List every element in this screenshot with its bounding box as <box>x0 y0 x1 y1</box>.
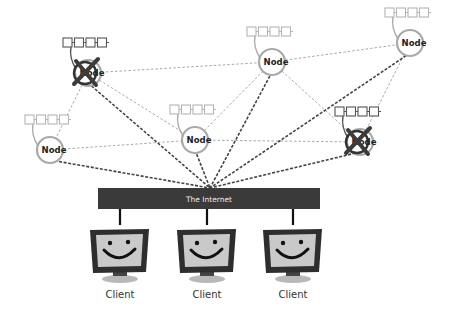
node-n4[interactable]: Node <box>25 115 71 163</box>
client-3[interactable]: Client <box>263 209 322 300</box>
internet-bar: The Internet <box>98 188 320 209</box>
node-label: Node <box>402 38 427 48</box>
client-label: Client <box>279 289 308 300</box>
node-n2[interactable]: Node <box>247 27 293 75</box>
node-label: Node <box>42 145 67 155</box>
message-queue-icon <box>335 107 381 116</box>
shapes-layer: NodeNodeNodeNodeNodeNodeThe InternetClie… <box>0 0 453 312</box>
client-1[interactable]: Client <box>90 209 149 300</box>
message-queue-icon <box>63 38 109 47</box>
node-n1-failed[interactable]: Node <box>63 38 109 86</box>
monitor-smiley-icon <box>90 229 149 283</box>
message-queue-icon <box>170 105 216 114</box>
node-label: Node <box>187 135 212 145</box>
client-label: Client <box>193 289 222 300</box>
message-queue-icon <box>385 8 431 17</box>
message-queue-icon <box>247 27 293 36</box>
node-n6-failed[interactable]: Node <box>335 107 381 155</box>
node-n5[interactable]: Node <box>170 105 216 153</box>
node-label: Node <box>264 57 289 67</box>
internet-label: The Internet <box>185 195 232 204</box>
client-2[interactable]: Client <box>177 209 236 300</box>
message-queue-icon <box>25 115 71 124</box>
node-n3[interactable]: Node <box>385 8 431 56</box>
monitor-smiley-icon <box>177 229 236 283</box>
network-diagram: NodeNodeNodeNodeNodeNodeThe InternetClie… <box>0 0 453 312</box>
client-label: Client <box>106 289 135 300</box>
monitor-smiley-icon <box>263 229 322 283</box>
